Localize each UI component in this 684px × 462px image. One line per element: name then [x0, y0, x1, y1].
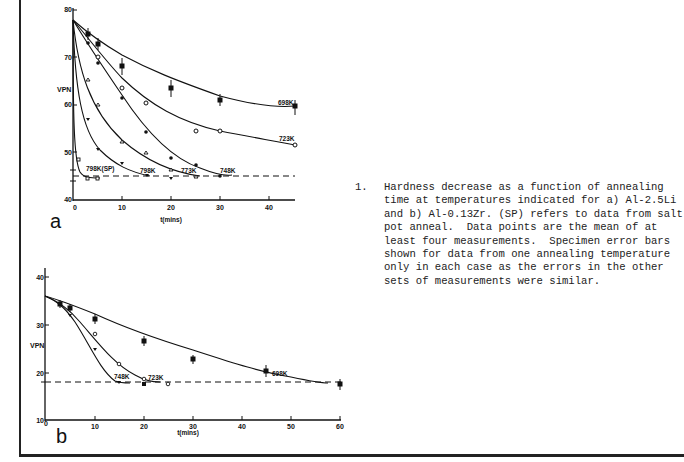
- markers-773K: [86, 78, 198, 178]
- caption-number: 1.: [355, 181, 368, 194]
- chart-b: 40 30 20 10 VPN 0 10 20 30 40 50 60 t(mi…: [30, 268, 344, 437]
- markers-698K: [86, 28, 297, 115]
- panel-label-b: b: [56, 425, 67, 448]
- label-798K-SP: 798K(SP): [86, 165, 115, 173]
- y-tick-label: 60: [64, 101, 72, 108]
- chart-a-x-label: t(mins): [160, 216, 182, 224]
- label-723K: 723K: [279, 135, 295, 142]
- x-tick-label: 0: [73, 204, 77, 211]
- x-tick-label: 10: [91, 423, 99, 430]
- y-tick-label: 10: [36, 417, 44, 424]
- label-773K: 773K: [181, 167, 197, 174]
- curve-698K: [73, 20, 295, 107]
- x-tick-label: 10: [118, 204, 126, 211]
- label-723K: 723K: [148, 374, 164, 381]
- x-tick-label: 20: [140, 423, 148, 430]
- y-tick-label: 30: [36, 322, 44, 329]
- chart-a-x-tick-labels: 0 10 20 30 40: [73, 204, 273, 211]
- y-tick-label: 50: [64, 149, 72, 156]
- caption-text: Hardness decrease as a function of annea…: [384, 181, 684, 288]
- figure-caption: 1. Hardness decrease as a function of an…: [355, 181, 680, 221]
- label-748K: 748K: [220, 167, 236, 174]
- chart-a-y-tick-labels: 80 70 60 50 40: [64, 6, 72, 203]
- y-tick-label: 20: [36, 370, 44, 377]
- markers-748K: [86, 41, 222, 178]
- chart-b-curve-labels: 698K 723K 748K: [114, 370, 288, 381]
- y-tick-label: 40: [36, 274, 44, 281]
- label-698K: 698K: [278, 99, 294, 106]
- panel-label-a: a: [50, 210, 61, 233]
- chart-b-x-label: t(mins): [177, 429, 199, 437]
- chart-a: 80 70 60 50 40 VPN 0 10 20 30 40 t(mins): [57, 6, 297, 224]
- label-748K: 748K: [114, 373, 130, 380]
- y-tick-label: 70: [64, 54, 72, 61]
- y-tick-label: 80: [64, 6, 72, 13]
- chart-a-y-label: VPN: [57, 86, 71, 93]
- x-tick-label: 40: [238, 423, 246, 430]
- chart-b-y-label: VPN: [30, 342, 44, 349]
- x-tick-label: 30: [216, 204, 224, 211]
- chart-b-y-tick-labels: 40 30 20 10: [36, 274, 44, 424]
- x-tick-label: 20: [167, 204, 175, 211]
- chart-a-curve-labels: 698K 723K 748K 773K 798K 798K(SP): [86, 99, 295, 174]
- x-tick-label: 50: [287, 423, 295, 430]
- x-tick-label: 40: [265, 204, 273, 211]
- x-tick-label: 60: [336, 423, 344, 430]
- curve-748K: [45, 296, 130, 383]
- x-tick-label: 0: [44, 420, 48, 427]
- y-tick-label: 40: [64, 196, 72, 203]
- chart-a-curves: [73, 20, 295, 178]
- label-698K: 698K: [272, 370, 288, 377]
- label-798K: 798K: [140, 167, 156, 174]
